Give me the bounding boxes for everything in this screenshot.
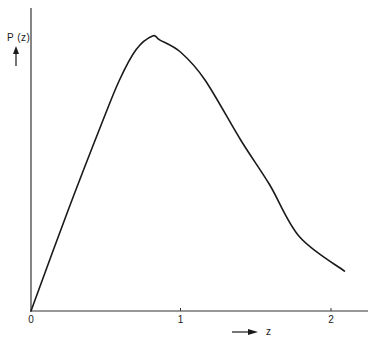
x-tick-label-0: 0 <box>28 315 34 325</box>
pz-curve <box>31 36 345 311</box>
x-tick-label-1: 1 <box>178 315 184 325</box>
x-axis-label: z <box>266 327 272 337</box>
x-arrow-icon <box>232 329 258 335</box>
y-arrow-icon <box>13 46 19 66</box>
y-axis-label: P (z) <box>7 33 30 43</box>
chart-canvas <box>0 0 375 341</box>
x-tick-label-2: 2 <box>328 315 334 325</box>
